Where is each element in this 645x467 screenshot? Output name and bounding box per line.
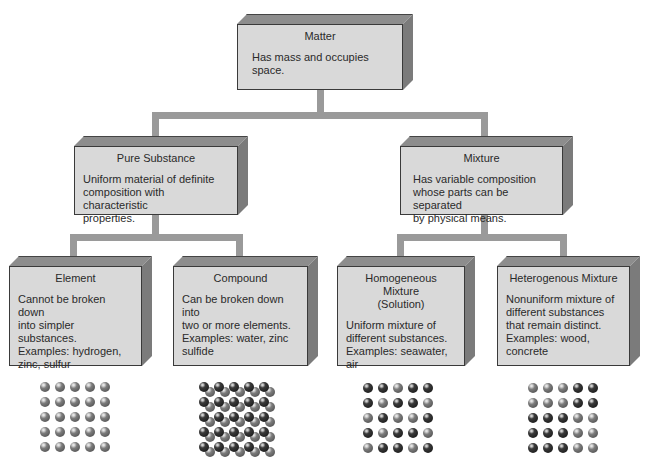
atom-icon	[55, 427, 65, 437]
connector-to-heterogeneous	[560, 234, 567, 258]
atom-icon	[70, 382, 80, 392]
connector-level1-horizontal	[152, 112, 488, 119]
atom-icon	[528, 443, 538, 453]
atom-icon	[588, 383, 598, 393]
connector-to-pure-substance	[152, 112, 159, 138]
atom-icon	[393, 428, 403, 438]
atom-icon	[100, 382, 110, 392]
node-description: Has mass and occupies space.	[246, 51, 394, 77]
atom-icon	[70, 412, 80, 422]
atom-icon	[229, 412, 239, 422]
atom-icon	[363, 398, 373, 408]
atom-icon	[100, 427, 110, 437]
atom-icon	[229, 442, 239, 452]
atom-icon	[378, 383, 388, 393]
atom-icon	[214, 412, 224, 422]
atom-icon	[244, 412, 254, 422]
atom-icon	[558, 428, 568, 438]
atom-icon	[588, 443, 598, 453]
atom-icon	[259, 442, 269, 452]
node-description: Has variable composition whose parts can…	[409, 173, 554, 225]
atom-icon	[573, 443, 583, 453]
atom-icon	[528, 398, 538, 408]
atom-icon	[408, 383, 418, 393]
atom-icon	[393, 383, 403, 393]
connector-level2-left-horizontal	[70, 234, 243, 241]
atom-icon	[378, 428, 388, 438]
atom-icon	[378, 398, 388, 408]
node-title: Pure Substance	[83, 152, 229, 165]
atom-icon	[199, 397, 209, 407]
atom-icon	[573, 383, 583, 393]
atom-icon	[40, 412, 50, 422]
atom-icon	[363, 383, 373, 393]
atom-icon	[393, 398, 403, 408]
atom-icon	[199, 382, 209, 392]
node-title: Heterogenous Mixture	[506, 272, 621, 285]
atom-icon	[85, 427, 95, 437]
atom-icon	[378, 443, 388, 453]
atom-icon	[40, 442, 50, 452]
atom-icon	[229, 382, 239, 392]
atom-icon	[100, 442, 110, 452]
atom-icon	[588, 413, 598, 423]
atom-icon	[588, 398, 598, 408]
atom-icon	[214, 382, 224, 392]
atom-icon	[259, 427, 269, 437]
node-compound: Compound Can be broken down into two or …	[173, 256, 318, 366]
node-title: Compound	[182, 272, 299, 285]
atom-icon	[40, 382, 50, 392]
atom-icon	[70, 427, 80, 437]
atom-icon	[528, 413, 538, 423]
atom-icon	[85, 397, 95, 407]
atom-icon	[558, 398, 568, 408]
atom-icon	[408, 428, 418, 438]
atom-icon	[70, 442, 80, 452]
atom-icon	[244, 442, 254, 452]
node-homogeneous-mixture: Homogeneous Mixture (Solution) Uniform m…	[337, 256, 475, 366]
atom-icon	[199, 442, 209, 452]
atom-icon	[363, 413, 373, 423]
atom-icon	[543, 443, 553, 453]
atom-icon	[100, 412, 110, 422]
atom-icon	[259, 397, 269, 407]
atom-icon	[199, 427, 209, 437]
node-matter: Matter Has mass and occupies space.	[237, 14, 413, 90]
atom-icon	[229, 427, 239, 437]
node-description: Nonuniform mixture of different substanc…	[506, 293, 621, 358]
atom-icon	[363, 428, 373, 438]
atom-icon	[244, 382, 254, 392]
atom-icon	[378, 413, 388, 423]
atom-icon	[423, 398, 433, 408]
node-title: Homogeneous Mixture (Solution)	[346, 272, 456, 311]
atom-icon	[573, 398, 583, 408]
node-mixture: Mixture Has variable composition whose p…	[400, 136, 573, 215]
atom-icon	[393, 443, 403, 453]
atom-icon	[528, 428, 538, 438]
node-title: Matter	[246, 30, 394, 43]
atom-icon	[214, 427, 224, 437]
atom-icon	[423, 428, 433, 438]
atom-icon	[100, 397, 110, 407]
atom-icon	[408, 413, 418, 423]
atom-icon	[85, 412, 95, 422]
atom-icon	[543, 428, 553, 438]
atom-icon	[40, 427, 50, 437]
connector-to-homogeneous	[397, 234, 404, 258]
node-title: Element	[18, 272, 133, 285]
atom-icon	[423, 413, 433, 423]
atom-icon	[259, 382, 269, 392]
atom-icon	[423, 443, 433, 453]
atom-icon	[85, 442, 95, 452]
atom-icon	[214, 397, 224, 407]
atom-icon	[55, 382, 65, 392]
connector-to-element	[70, 234, 77, 258]
atom-icon	[70, 397, 80, 407]
atom-icon	[558, 413, 568, 423]
atom-icon	[423, 383, 433, 393]
atom-icon	[573, 428, 583, 438]
atom-icon	[408, 443, 418, 453]
atom-icon	[244, 427, 254, 437]
atom-icon	[244, 397, 254, 407]
node-description: Can be broken down into two or more elem…	[182, 293, 299, 358]
